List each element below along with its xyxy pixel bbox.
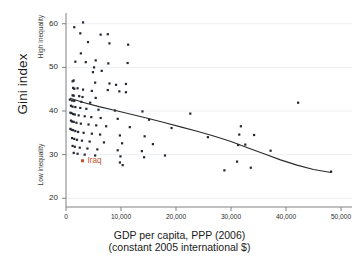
data-point [125,83,127,85]
data-point [127,62,129,64]
data-point [122,164,124,166]
data-point [73,88,75,90]
x-axis-tick-label: 30,000 [206,213,256,221]
data-point [127,44,129,46]
data-point [141,150,143,152]
data-point [73,152,75,154]
data-point [238,133,240,135]
data-point [79,107,81,109]
x-axis-title-line1: GDP per capita, PPP (2006) [0,229,359,242]
data-point [240,125,242,127]
data-point [105,125,107,127]
data-point [119,134,121,136]
data-point [100,117,102,119]
data-point [81,140,83,142]
x-axis-tick-label: 40,000 [261,213,311,221]
data-point [80,52,82,54]
y-axis-tick-label: 20 [38,194,58,202]
data-point [90,116,92,118]
data-point [82,21,84,23]
y-axis-tick-label-wrap: 20 [36,194,58,202]
data-point [73,95,75,97]
y-axis-tick-label: 50 [38,63,58,71]
data-point [250,167,252,169]
data-point [103,141,105,143]
y-axis-tick-label: 60 [38,20,58,28]
data-point [85,108,87,110]
data-point [270,150,272,152]
data-point [74,61,76,63]
data-point [95,59,97,61]
y-axis-tick-label: 30 [38,151,58,159]
y-axis-tick-label-wrap: 60 [36,20,58,28]
data-point [71,137,73,139]
data-point [95,97,97,99]
data-point [77,131,79,133]
data-point [72,129,74,131]
data-point [223,169,225,171]
data-point [72,145,74,147]
data-point [253,134,255,136]
data-point [76,139,78,141]
data-point [117,149,119,151]
data-point [152,143,154,145]
y-axis-tick-label-wrap: 30 [36,151,58,159]
data-point [91,90,93,92]
data-point [74,130,76,132]
data-point [73,138,75,140]
data-point [91,133,93,135]
data-point [119,161,121,163]
data-point [144,135,146,137]
data-point [86,147,88,149]
y-axis-tick-label-wrap: 50 [36,63,58,71]
data-point [99,133,101,135]
x-axis-tick-label: 10,000 [96,213,146,221]
x-axis-tick-label: 50,000 [316,213,359,221]
data-point [76,153,78,155]
x-axis-title-line2: (constant 2005 international $) [0,241,359,254]
data-point [107,62,109,64]
data-point [73,26,75,28]
data-point [189,113,191,115]
data-point [164,154,166,156]
data-point [89,140,91,142]
data-point [78,95,80,97]
data-point [89,102,91,104]
data-point [72,80,74,82]
plot-canvas [0,0,359,263]
data-point [96,148,98,150]
data-point [73,121,75,123]
data-point [83,132,85,134]
data-point [121,142,123,144]
data-point [95,124,97,126]
data-point [76,87,78,89]
scatter-chart-figure: Gini index High inequality Low inequalit… [0,0,359,263]
data-point [87,123,89,125]
data-point [117,118,119,120]
data-point [72,106,74,108]
data-point [141,110,143,112]
data-point [74,146,76,148]
data-point [94,82,96,84]
data-point [236,161,238,163]
data-point [101,70,103,72]
data-point [125,91,127,93]
data-point [108,42,110,44]
data-point [74,113,76,115]
data-point [82,89,84,91]
data-point [79,32,81,34]
data-point [143,156,145,158]
y-axis-tick-label: 40 [38,107,58,115]
data-point [81,96,83,98]
data-point [297,102,299,104]
data-point [84,154,86,156]
data-point [87,41,89,43]
data-point [100,34,102,36]
data-point [71,99,73,101]
data-point [84,115,86,117]
x-axis-tick-label: 0 [41,213,91,221]
data-point [80,123,82,125]
data-point [244,144,246,146]
data-point [85,61,87,63]
data-point-label-iraq: Iraq [88,156,102,165]
